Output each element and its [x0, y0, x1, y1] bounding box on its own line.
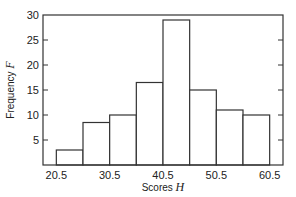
y-tick-label: 20 — [27, 59, 39, 71]
y-tick-label: 5 — [33, 134, 39, 146]
x-axis-ticks: 20.530.540.550.560.5 — [46, 169, 281, 181]
histogram-bars — [56, 20, 269, 165]
histogram-bar — [190, 90, 217, 165]
x-tick-label: 30.5 — [99, 169, 120, 181]
y-axis-label: Frequency F — [3, 61, 17, 119]
histogram-bar — [110, 115, 137, 165]
histogram-bar — [243, 115, 270, 165]
y-tick-label: 25 — [27, 34, 39, 46]
y-tick-label: 15 — [27, 84, 39, 96]
histogram-chart: 51015202530 20.530.540.550.560.5 Scores … — [0, 0, 296, 197]
histogram-bar — [83, 123, 110, 166]
x-tick-label: 40.5 — [152, 169, 173, 181]
histogram-bar — [136, 83, 163, 166]
histogram-bar — [163, 20, 190, 165]
x-tick-label: 50.5 — [206, 169, 227, 181]
y-axis-variable: F — [3, 61, 17, 70]
x-axis-variable: H — [175, 180, 186, 194]
y-tick-label: 30 — [27, 9, 39, 21]
x-axis-label: Scores H — [142, 180, 186, 194]
x-tick-label: 20.5 — [46, 169, 67, 181]
x-tick-label: 60.5 — [259, 169, 280, 181]
y-tick-label: 10 — [27, 109, 39, 121]
histogram-bar — [216, 110, 243, 165]
histogram-bar — [56, 150, 83, 165]
